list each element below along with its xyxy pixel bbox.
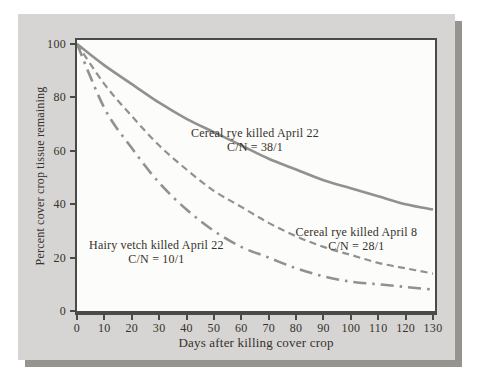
x-tick-label: 80 xyxy=(290,321,303,336)
x-tick-mark xyxy=(131,315,133,320)
y-tick-mark xyxy=(70,257,75,259)
x-tick-mark xyxy=(213,315,215,320)
x-tick-label: 10 xyxy=(98,321,111,336)
x-tick-label: 30 xyxy=(153,321,166,336)
x-axis-title: Days after killing cover crop xyxy=(77,335,435,351)
x-tick-label: 70 xyxy=(262,321,275,336)
curves-plot xyxy=(77,40,435,311)
plot-area: Cereal rye killed April 22C/N = 38/1Cere… xyxy=(75,38,437,315)
y-tick-mark xyxy=(70,43,75,45)
x-tick-mark xyxy=(103,315,105,320)
x-tick-mark xyxy=(432,315,434,320)
y-tick-mark xyxy=(70,96,75,98)
x-tick-label: 120 xyxy=(396,321,415,336)
curve-label-cn-ratio: C/N = 10/1 xyxy=(89,252,224,266)
x-tick-label: 90 xyxy=(317,321,330,336)
y-tick-mark xyxy=(70,310,75,312)
x-tick-mark xyxy=(268,315,270,320)
x-tick-label: 20 xyxy=(125,321,138,336)
x-tick-mark xyxy=(76,315,78,320)
y-tick-mark xyxy=(70,203,75,205)
y-tick-label: 100 xyxy=(36,37,66,52)
curve-label-name: Hairy vetch killed April 22 xyxy=(89,238,224,252)
y-tick-mark xyxy=(70,150,75,152)
x-tick-label: 50 xyxy=(208,321,221,336)
x-tick-mark xyxy=(158,315,160,320)
curve-label-name: Cereal rye killed April 8 xyxy=(295,225,417,239)
x-tick-label: 40 xyxy=(180,321,193,336)
curve-label-cn-ratio: C/N = 28/1 xyxy=(295,239,417,253)
x-tick-mark xyxy=(322,315,324,320)
curve-label: Cereal rye killed April 8C/N = 28/1 xyxy=(295,225,417,253)
x-tick-label: 110 xyxy=(369,321,387,336)
figure-panel: Cereal rye killed April 22C/N = 38/1Cere… xyxy=(18,14,455,360)
curve-label: Cereal rye killed April 22C/N = 38/1 xyxy=(191,126,319,154)
curve-label-cn-ratio: C/N = 38/1 xyxy=(191,140,319,154)
x-tick-mark xyxy=(186,315,188,320)
x-tick-mark xyxy=(295,315,297,320)
curve-label: Hairy vetch killed April 22C/N = 10/1 xyxy=(89,238,224,266)
curve-label-name: Cereal rye killed April 22 xyxy=(191,126,319,140)
x-tick-mark xyxy=(405,315,407,320)
x-tick-label: 100 xyxy=(341,321,360,336)
x-tick-label: 60 xyxy=(235,321,248,336)
y-axis-title: Percent cover crop tissue remaining xyxy=(33,87,48,266)
x-tick-label: 0 xyxy=(74,321,80,336)
x-tick-mark xyxy=(240,315,242,320)
x-tick-label: 130 xyxy=(424,321,443,336)
x-tick-mark xyxy=(377,315,379,320)
y-tick-label: 0 xyxy=(36,304,66,319)
x-tick-mark xyxy=(350,315,352,320)
